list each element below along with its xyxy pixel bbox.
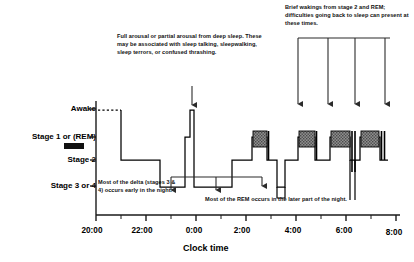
rem-block: [253, 131, 267, 147]
rem-key-swatch: [64, 143, 84, 149]
deep-dips: [277, 160, 355, 200]
hypnogram-figure: Awake Stage 1 or (REM) Stage 2 Stage 3 o…: [0, 0, 414, 262]
axis-group: [90, 101, 400, 221]
hypnogram-canvas: [0, 0, 414, 262]
annotation-leaders: [171, 38, 390, 190]
trace-main: [121, 110, 388, 187]
rem-block: [299, 131, 315, 147]
rem-block: [331, 131, 350, 147]
x-major-ticks: [96, 215, 396, 221]
sleep-stage-trace: [98, 110, 388, 187]
rem-block: [361, 131, 379, 147]
